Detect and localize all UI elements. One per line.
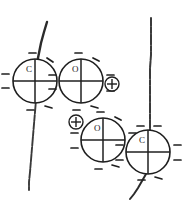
atom-c-top-left: C <box>2 53 68 110</box>
atom-c-bottom-right: C <box>116 126 181 180</box>
atom-label: O <box>94 123 101 133</box>
atom-label: O <box>72 64 79 74</box>
atom-label: C <box>139 135 145 145</box>
diagram-canvas: C O <box>0 0 184 209</box>
atom-label: C <box>26 64 32 74</box>
chemistry-sketch-figure: C O <box>0 0 184 209</box>
charge-bottom-left <box>69 115 83 129</box>
atom-o-top-middle: O <box>49 53 114 110</box>
charge-top-right <box>105 77 119 91</box>
